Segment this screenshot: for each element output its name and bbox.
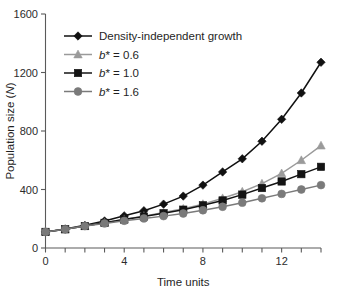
data-point-marker (160, 212, 168, 220)
data-point-marker (219, 203, 227, 211)
data-point-marker (317, 58, 325, 66)
data-point-marker (42, 228, 50, 236)
data-series (41, 58, 325, 236)
data-point-marker (258, 184, 265, 191)
data-point-marker (179, 192, 187, 200)
y-axis-title: Population size (N) (4, 82, 16, 179)
data-point-marker (317, 163, 324, 170)
data-point-marker (199, 206, 207, 214)
data-point-marker (179, 210, 187, 218)
x-tick-label: 12 (276, 255, 288, 267)
chart-figure: 04008001200160004812 Density-independent… (0, 0, 337, 292)
data-point-marker (159, 200, 167, 208)
data-point-marker (74, 69, 81, 76)
series-line (46, 146, 322, 232)
data-point-marker (199, 181, 207, 189)
data-point-marker (317, 181, 325, 189)
data-point-marker (218, 168, 226, 176)
data-point-marker (238, 199, 246, 207)
axes: 04008001200160004812 (14, 8, 321, 267)
y-tick-label: 1600 (14, 8, 38, 20)
legend-entry-2: b* = 0.6 (64, 49, 139, 61)
population-growth-line-chart: 04008001200160004812 Density-independent… (0, 0, 337, 292)
data-point-marker (297, 186, 305, 194)
x-tick-label: 0 (42, 255, 48, 267)
legend-entry-1: Density-independent growth (64, 30, 242, 42)
y-tick-label: 400 (20, 184, 38, 196)
data-point-marker (317, 141, 325, 149)
legend-entry-4: b* = 1.6 (64, 86, 139, 98)
data-point-marker (298, 170, 305, 177)
y-tick-label: 1200 (14, 67, 38, 79)
data-point-marker (140, 215, 148, 223)
chart-legend: Density-independent growthb* = 0.6b* = 1… (64, 30, 242, 98)
data-point-marker (61, 225, 69, 233)
data-point-marker (297, 156, 305, 164)
data-point-marker (81, 222, 89, 230)
data-point-marker (120, 217, 128, 225)
data-point-marker (239, 191, 246, 198)
y-tick-label: 800 (20, 125, 38, 137)
data-point-marker (277, 169, 285, 177)
data-point-marker (74, 32, 82, 40)
data-point-marker (101, 220, 109, 228)
x-tick-label: 8 (200, 255, 206, 267)
legend-entry-3: b* = 1.0 (64, 67, 139, 79)
legend-label: b* = 0.6 (99, 49, 139, 61)
x-tick-label: 4 (121, 255, 127, 267)
series-2 (41, 141, 325, 235)
data-point-marker (278, 178, 285, 185)
legend-label: b* = 1.0 (99, 67, 139, 79)
legend-label: Density-independent growth (99, 30, 242, 42)
data-point-marker (258, 194, 266, 202)
data-point-marker (74, 88, 82, 96)
y-tick-label: 0 (32, 242, 38, 254)
legend-label: b* = 1.6 (99, 86, 139, 98)
x-axis-title: Time units (157, 276, 210, 288)
data-point-marker (278, 190, 286, 198)
